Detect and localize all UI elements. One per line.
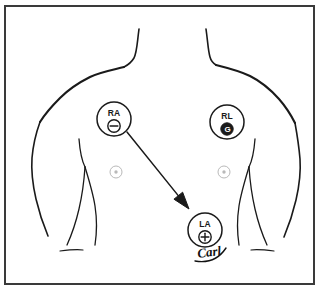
left-nipple-mark-center: [114, 170, 117, 173]
diagram-canvas: RARLGLA Carl: [0, 0, 326, 295]
figure-background: [0, 0, 326, 295]
electrode-rl[interactable]: RLG: [210, 105, 244, 139]
electrode-la[interactable]: LA: [188, 213, 222, 247]
electrode-rl-label: RL: [221, 111, 232, 121]
electrode-rl-ground-glyph: G: [224, 125, 230, 134]
right-nipple-mark-center: [222, 170, 225, 173]
electrode-la-label: LA: [199, 219, 210, 229]
ecg-electrode-diagram: RARLGLA Carl Hand-drawn anterior torso d…: [0, 0, 326, 295]
electrode-ra[interactable]: RA: [97, 102, 131, 136]
electrode-ra-label: RA: [108, 108, 120, 118]
